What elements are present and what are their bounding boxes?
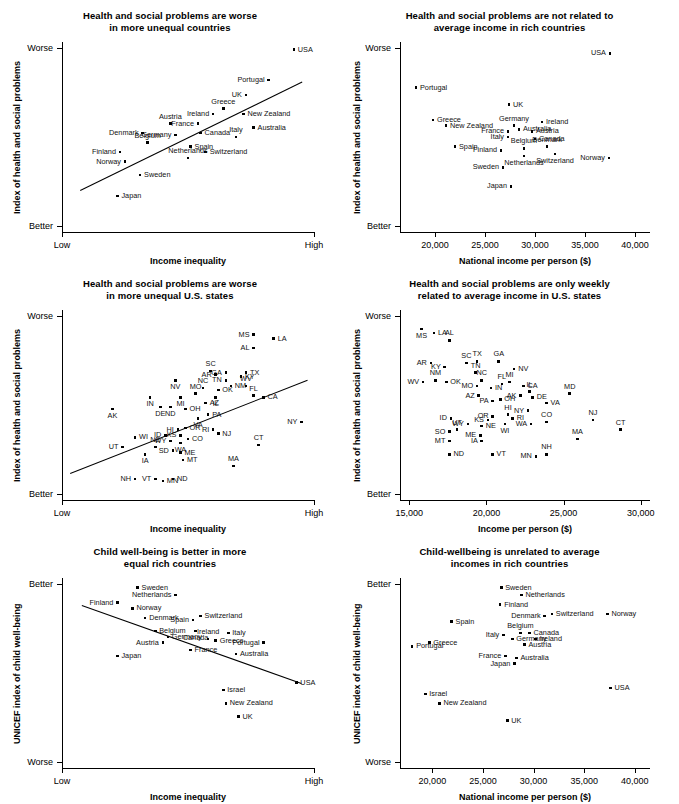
data-point xyxy=(506,719,509,722)
y-tick-label: Better xyxy=(367,489,391,499)
y-axis-label: Index of health and social problems xyxy=(12,60,22,213)
data-point-label: Portugal xyxy=(237,76,264,84)
data-point-label: Netherlands xyxy=(168,147,207,155)
data-point xyxy=(131,607,134,610)
data-point xyxy=(174,594,177,597)
data-point xyxy=(438,702,441,705)
data-point xyxy=(448,339,451,342)
data-point-label: Portugal xyxy=(420,84,447,92)
x-tick-label: 20,000 xyxy=(473,508,501,518)
data-point-label: Switzerland xyxy=(205,612,243,620)
data-point xyxy=(515,657,518,660)
data-point xyxy=(134,436,137,439)
data-point xyxy=(252,126,255,129)
data-point xyxy=(424,693,427,696)
data-point-label: OK xyxy=(450,378,461,386)
data-point-label: Israel xyxy=(429,690,447,698)
data-point xyxy=(500,149,503,152)
chart-title: Health and social problems are worsein m… xyxy=(0,10,340,34)
data-point xyxy=(116,655,119,658)
chart-panel-p1: Health and social problems are worsein m… xyxy=(0,0,340,268)
plot-area: BetterWorseUNICEF index of child well-be… xyxy=(62,578,314,768)
x-tick xyxy=(485,232,486,237)
data-point xyxy=(184,408,187,411)
data-point xyxy=(225,371,228,374)
chart-title: Child-wellbeing is unrelated to averagei… xyxy=(340,546,679,570)
data-point xyxy=(149,396,152,399)
data-point-label: SO xyxy=(435,428,446,436)
data-point xyxy=(530,423,533,426)
data-point xyxy=(523,643,526,646)
data-point-label: Austria xyxy=(528,641,551,649)
data-point xyxy=(443,366,446,369)
x-tick xyxy=(486,500,487,505)
data-point xyxy=(432,119,435,122)
data-point-label: Australia xyxy=(520,654,548,662)
data-point xyxy=(293,48,296,51)
chart-title: Health and social problems are not relat… xyxy=(340,10,679,34)
data-point xyxy=(448,430,451,433)
data-point xyxy=(214,639,217,642)
data-point xyxy=(217,389,220,392)
data-point-label: SC xyxy=(461,352,471,360)
data-point-label: MS xyxy=(416,332,427,340)
data-point xyxy=(543,615,546,618)
data-point-label: MT xyxy=(187,456,198,464)
data-point xyxy=(252,394,255,397)
data-point-label: NJ xyxy=(222,430,231,438)
data-point-label: AZ xyxy=(465,392,474,400)
chart-title-line2: average income in rich countries xyxy=(340,22,679,34)
data-point xyxy=(111,408,114,411)
data-point-label: NE xyxy=(486,422,496,430)
x-axis-label: Income inequality xyxy=(150,792,226,802)
data-point xyxy=(518,128,521,131)
data-point xyxy=(257,444,260,447)
data-point-label: MS xyxy=(239,331,250,339)
x-tick-label: Low xyxy=(54,508,71,518)
data-point xyxy=(527,409,530,412)
data-point-label: FL xyxy=(249,385,258,393)
data-point-label: OH xyxy=(189,405,200,413)
data-point-label: New Zealand xyxy=(230,699,273,707)
data-point xyxy=(490,387,493,390)
y-tick-label: Worse xyxy=(27,311,53,321)
data-point-label: OR xyxy=(189,424,200,432)
data-point xyxy=(199,615,202,618)
y-tick-label: Better xyxy=(367,579,391,589)
data-point-label: DE xyxy=(155,410,165,418)
data-point-label: Ireland xyxy=(197,628,219,636)
data-point-label: IA xyxy=(142,457,149,465)
data-point xyxy=(507,136,510,139)
chart-title-line2: equal rich countries xyxy=(0,558,340,570)
data-point-label: UK xyxy=(242,713,252,721)
data-point-label: NE xyxy=(150,436,160,444)
y-tick-label: Worse xyxy=(27,757,53,767)
data-point-label: Spain xyxy=(456,618,475,626)
data-point xyxy=(162,480,165,483)
data-point xyxy=(508,103,511,106)
data-point-label: USA xyxy=(298,46,313,54)
chart-title: Child well-being is better in moreequal … xyxy=(0,546,340,570)
data-point-label: Germany xyxy=(499,115,529,123)
data-point xyxy=(202,387,205,390)
x-axis-label: Income inequality xyxy=(150,256,226,266)
data-point-label: Austria xyxy=(136,639,159,647)
data-point xyxy=(531,396,534,399)
y-axis xyxy=(400,578,401,768)
x-tick-label: High xyxy=(305,508,324,518)
y-axis xyxy=(400,310,401,500)
data-point-label: Netherlands xyxy=(525,591,564,599)
data-point-label: TN xyxy=(212,376,222,384)
data-point xyxy=(507,413,510,416)
plot-area: BetterWorseUNICEF index of child well-be… xyxy=(400,578,650,768)
x-axis xyxy=(400,768,650,769)
x-axis-label: Income inequality xyxy=(150,524,226,534)
data-point xyxy=(504,423,507,426)
data-point-label: Netherlands xyxy=(132,591,171,599)
data-point-label: Ireland xyxy=(187,110,209,118)
data-point xyxy=(420,328,423,331)
data-point xyxy=(448,453,451,456)
data-point xyxy=(167,636,170,639)
data-point-label: NV xyxy=(170,383,180,391)
y-tick xyxy=(57,762,62,763)
